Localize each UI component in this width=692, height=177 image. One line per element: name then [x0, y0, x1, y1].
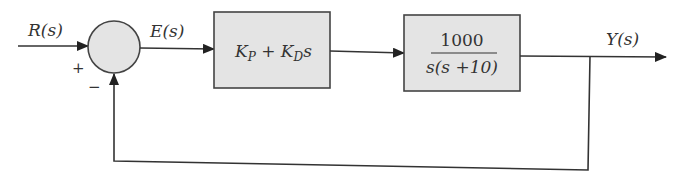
plant-block: 1000 s(s +10) [404, 15, 520, 91]
plant-numerator: 1000 [440, 30, 483, 50]
plant-denominator: s(s +10) [426, 57, 498, 77]
input-signal: R(s) [18, 20, 88, 46]
summing-junction-circle [88, 21, 140, 73]
output-arrow [520, 56, 666, 57]
error-signal: E(s) [140, 21, 214, 49]
output-signal: Y(s) [520, 29, 666, 57]
input-label: R(s) [27, 20, 63, 40]
minus-sign: − [88, 78, 101, 96]
error-arrow [140, 48, 214, 49]
control-signal-arrow [330, 51, 404, 53]
error-label: E(s) [149, 21, 184, 41]
block-diagram: R(s) + − E(s) KP + KDs 1000 s(s +10) Y(s… [0, 0, 692, 177]
summing-junction: + − [72, 21, 140, 96]
plus-sign: + [72, 59, 85, 77]
output-label: Y(s) [606, 29, 639, 49]
controller-block: KP + KDs [214, 12, 330, 88]
